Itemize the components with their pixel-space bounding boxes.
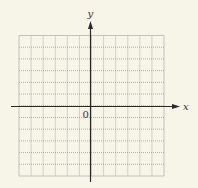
x-axis-label: x xyxy=(183,101,189,112)
y-axis-label: y xyxy=(87,8,94,19)
coordinate-plane: x y 0 xyxy=(0,0,198,188)
origin-label: 0 xyxy=(83,109,89,120)
